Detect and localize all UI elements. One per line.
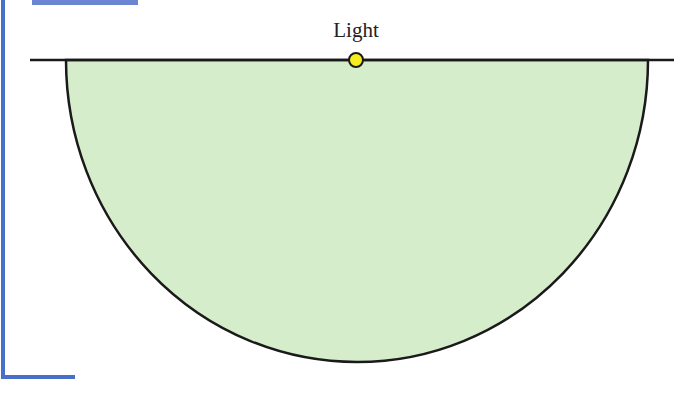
frame-bracket	[3, 0, 75, 377]
header-tab-bar	[32, 0, 138, 5]
light-label: Light	[316, 18, 396, 43]
light-source-icon	[349, 53, 363, 67]
diagram-canvas	[0, 0, 686, 397]
hemisphere-body	[66, 60, 648, 362]
